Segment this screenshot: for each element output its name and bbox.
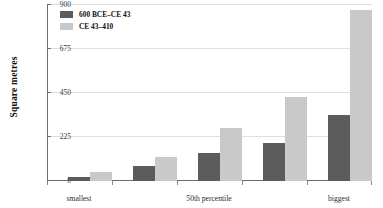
- y-tick-label-0: 0: [41, 176, 71, 185]
- x-tick-mark-4: [307, 181, 308, 185]
- bar-group-1-series-2: [90, 172, 112, 181]
- x-tick-mark-2: [177, 181, 178, 185]
- gridline-900: [47, 4, 372, 5]
- legend-item-0: 600 BCE–CE 43: [60, 9, 130, 19]
- x-tick-mark-0: [47, 181, 48, 185]
- legend-swatch-icon-series-2: [60, 23, 73, 30]
- gridline-675: [47, 48, 372, 49]
- legend-item-1: CE 43–410: [60, 21, 130, 31]
- bar-group-3-series-1: [198, 153, 220, 181]
- gridline-450: [47, 92, 372, 93]
- legend-label-series-1: 600 BCE–CE 43: [79, 10, 130, 19]
- bar-group-2-series-1: [133, 166, 155, 181]
- x-tick-label-50th-percentile: 50th percentile: [164, 194, 254, 203]
- y-tick-label-225: 225: [41, 132, 71, 141]
- bar-group-5-series-1: [328, 115, 350, 181]
- x-tick-mark-5: [371, 181, 372, 185]
- y-tick-label-675: 675: [41, 44, 71, 53]
- y-axis-title: Square metres: [9, 27, 19, 147]
- bar-group-4-series-2: [285, 97, 307, 181]
- bar-group-4-series-1: [263, 143, 285, 181]
- x-tick-label-smallest: smallest: [34, 194, 124, 203]
- legend-label-series-2: CE 43–410: [79, 22, 113, 31]
- legend: 600 BCE–CE 43 CE 43–410: [60, 9, 130, 33]
- bar-chart: Square metres 900 675 450 225 0: [0, 0, 383, 208]
- x-tick-mark-1: [112, 181, 113, 185]
- bar-group-2-series-2: [155, 157, 177, 181]
- y-tick-label-450: 450: [41, 88, 71, 97]
- x-tick-label-biggest: biggest: [294, 194, 383, 203]
- legend-swatch-icon-series-1: [60, 11, 73, 18]
- bar-group-5-series-2: [350, 10, 372, 181]
- y-tick-label-900: 900: [41, 0, 71, 9]
- bar-group-1-series-1: [68, 177, 90, 181]
- x-tick-mark-3: [242, 181, 243, 185]
- bar-group-3-series-2: [220, 128, 242, 181]
- gridline-225: [47, 136, 372, 137]
